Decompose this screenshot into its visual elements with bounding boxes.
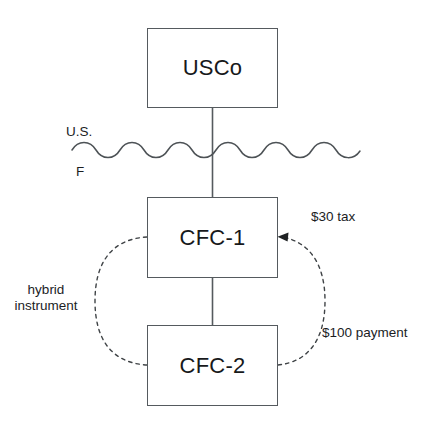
border-label-foreign: F	[76, 164, 84, 179]
annotation-hybrid-instrument-line1: hybrid	[0, 282, 92, 298]
annotation-hybrid-instrument: hybrid instrument	[0, 282, 92, 314]
entity-label-cfc2: CFC-2	[180, 355, 246, 377]
entity-box-cfc2[interactable]: CFC-2	[147, 325, 278, 406]
border-label-us: U.S.	[66, 124, 92, 139]
annotation-hybrid-instrument-line2: instrument	[0, 298, 92, 314]
payment-arrowhead-icon	[278, 232, 289, 241]
annotation-payment-amount: $100 payment	[322, 325, 408, 340]
payment-flow-arc	[278, 238, 325, 366]
annotation-tax-amount: $30 tax	[311, 209, 355, 224]
entity-label-usco: USCo	[183, 57, 243, 79]
hybrid-instrument-arc	[95, 237, 147, 365]
entity-box-usco[interactable]: USCo	[147, 28, 278, 108]
national-border-wavy-line	[72, 143, 360, 158]
diagram-canvas: USCo CFC-1 CFC-2 U.S. F $30 tax $100 pay…	[0, 0, 435, 428]
entity-box-cfc1[interactable]: CFC-1	[147, 197, 278, 278]
entity-label-cfc1: CFC-1	[180, 227, 246, 249]
